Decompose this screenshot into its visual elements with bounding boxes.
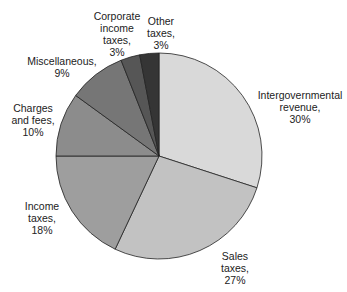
slice-label: Intergovernmental revenue, 30% xyxy=(250,89,347,125)
slice-label: Charges and fees, 10% xyxy=(6,102,60,138)
slice-label: Sales taxes, 27% xyxy=(215,250,255,286)
slice-label: Other taxes, 3% xyxy=(143,15,179,51)
slice-label: Corporate income taxes, 3% xyxy=(89,10,145,58)
slice-label: Income taxes, 18% xyxy=(18,200,66,236)
slice-label: Miscellaneous, 9% xyxy=(22,55,102,79)
